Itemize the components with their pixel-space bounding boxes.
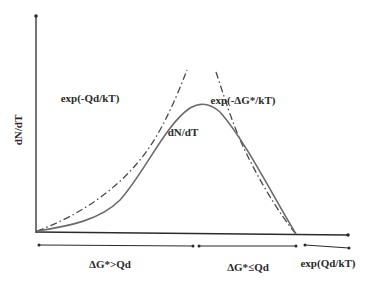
region-arrow-middle	[198, 245, 298, 248]
x-axis-arrow-icon	[346, 233, 350, 237]
region-arrow-left	[38, 244, 195, 248]
label-exp-neg-dg-kt: exp(-ΔG*/kT)	[211, 94, 276, 107]
region-label-left: ΔG*>Qd	[89, 258, 131, 270]
y-axis-label: dN/dT	[12, 114, 24, 145]
region-label-right: exp(Qd/kT)	[300, 257, 355, 270]
nucleation-rate-diagram: dN/dT exp(-Qd/kT) exp(-ΔG*/kT) dN/dT ΔG*…	[0, 0, 366, 287]
x-axis	[36, 232, 350, 237]
label-dn-dt: dN/dT	[168, 126, 199, 138]
region-label-middle: ΔG*≤Qd	[227, 261, 269, 273]
y-axis	[34, 14, 38, 233]
y-axis-arrow-icon	[34, 14, 38, 18]
label-exp-neg-qd-kt: exp(-Qd/kT)	[61, 92, 120, 105]
region-arrow-right	[304, 244, 351, 250]
curve-dn-dt	[37, 104, 296, 234]
